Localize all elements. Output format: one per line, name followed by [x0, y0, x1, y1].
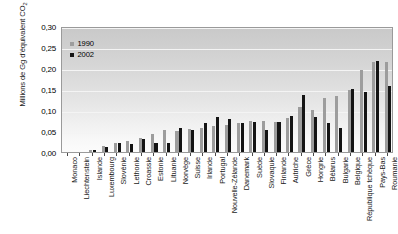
x-axis-tick-label: Norvège [181, 157, 190, 184]
bar-2002 [302, 95, 305, 152]
bar-group [296, 28, 308, 152]
x-axis-tick-label: Grèce [304, 157, 313, 177]
x-axis-tick-label: Luxembourg [107, 157, 116, 197]
x-axis-tick [202, 153, 203, 157]
bar-group [345, 28, 357, 152]
emissions-bar-chart: Millions de Gg d'équivalent CO2 0,300,25… [0, 0, 398, 234]
bar-group [357, 28, 369, 152]
legend-swatch-icon [70, 42, 74, 46]
y-axis-tick-label: 0,00 [22, 148, 56, 157]
x-axis-tick [129, 153, 130, 157]
bar-group [185, 28, 197, 152]
bar-2002 [241, 123, 244, 152]
y-axis-tick-labels: 0,300,250,200,150,100,050,00 [22, 20, 56, 154]
plot-area [61, 27, 393, 153]
bar-group [283, 28, 295, 152]
bar-group [123, 28, 135, 152]
bar-2002 [290, 116, 293, 151]
legend-item-2002: 2002 [70, 50, 94, 60]
x-axis-ticks [61, 153, 393, 157]
x-axis-tick [215, 153, 216, 157]
bar-2002 [130, 144, 133, 151]
x-axis-tick [288, 153, 289, 157]
y-axis-tick-label: 0,30 [22, 22, 56, 31]
x-axis-tick-label: République tchèque [365, 157, 374, 221]
x-axis-tick-labels: MonacoLiechtensteinIslandeLuxembourgSlov… [61, 157, 393, 234]
y-axis-tick-label: 0,20 [22, 64, 56, 73]
bar-group [136, 28, 148, 152]
x-axis-tick [178, 153, 179, 157]
x-axis-tick-label: Roumanie [390, 157, 398, 190]
x-axis-tick [301, 153, 302, 157]
bar-2002 [105, 147, 108, 152]
bar-2002 [167, 143, 170, 151]
bar-group [160, 28, 172, 152]
x-axis-tick-label: Autriche [291, 157, 300, 183]
bar-2002 [191, 130, 194, 152]
x-axis-tick [276, 153, 277, 157]
bar-2002 [364, 92, 367, 152]
x-axis-tick [338, 153, 339, 157]
x-axis-tick [387, 153, 388, 157]
x-axis-tick [350, 153, 351, 157]
x-axis-tick [375, 153, 376, 157]
x-axis-tick-label: Suisse [193, 157, 202, 179]
y-axis-tick-label: 0,10 [22, 106, 56, 115]
x-axis-tick-label: Nouvelle-Zélande [230, 157, 239, 213]
bar-group [99, 28, 111, 152]
bar-2002 [118, 143, 121, 151]
bar-group [259, 28, 271, 152]
x-axis-tick-label: Lituanie [169, 157, 178, 182]
bar-group [320, 28, 332, 152]
x-axis-tick-label: Portugal [218, 157, 227, 184]
bar-group [210, 28, 222, 152]
x-axis-tick-label: Liechtenstein [82, 157, 91, 199]
x-axis-tick-label: Bulgarie [341, 157, 350, 183]
bar-group [246, 28, 258, 152]
bar-2002 [154, 143, 157, 152]
x-axis-tick [166, 153, 167, 157]
bar-2002 [339, 128, 342, 151]
x-axis-tick [79, 153, 80, 157]
x-axis-tick [67, 153, 68, 157]
x-axis-tick-label: Slovaquie [267, 157, 276, 189]
x-axis-tick [239, 153, 240, 157]
bar-group [382, 28, 393, 152]
x-axis-tick-label: Lethonie [132, 157, 141, 185]
bar-2002 [228, 119, 231, 151]
chart-legend: 19902002 [70, 39, 94, 61]
x-axis-tick [264, 153, 265, 157]
x-axis-tick-label: Danemark [242, 157, 251, 190]
bar-group [234, 28, 246, 152]
x-axis-tick-label: Belgique [353, 157, 362, 185]
y-axis-tick-label: 0,25 [22, 43, 56, 52]
bar-group [333, 28, 345, 152]
bar-2002 [93, 150, 96, 151]
x-axis-tick [252, 153, 253, 157]
bar-2002 [216, 117, 219, 151]
y-axis-tick-label: 0,05 [22, 127, 56, 136]
x-axis-tick [141, 153, 142, 157]
bar-2002 [388, 86, 391, 151]
x-axis-tick [313, 153, 314, 157]
bar-2002 [204, 123, 207, 152]
x-axis-tick-label: Pays-Bas [378, 157, 387, 188]
x-axis-tick [153, 153, 154, 157]
x-axis-tick [104, 153, 105, 157]
legend-label: 2002 [78, 51, 95, 59]
legend-swatch-icon [70, 53, 74, 57]
bar-2002 [265, 130, 268, 151]
x-axis-tick-label: Hongrie [316, 157, 325, 182]
x-axis-tick-label: Suède [255, 157, 264, 178]
bar-group [369, 28, 381, 152]
x-axis-tick [116, 153, 117, 157]
x-axis-tick-label: Estonie [156, 157, 165, 181]
bar-2002 [327, 123, 330, 152]
bars-layer [62, 28, 392, 152]
y-axis-title-subscript: 2 [21, 2, 27, 5]
x-axis-tick-label: Irlande [205, 157, 214, 179]
x-axis-tick-label: Croassie [144, 157, 153, 185]
bar-2002 [376, 61, 379, 152]
x-axis-tick [325, 153, 326, 157]
x-axis-tick-label: Slovénie [119, 157, 128, 185]
